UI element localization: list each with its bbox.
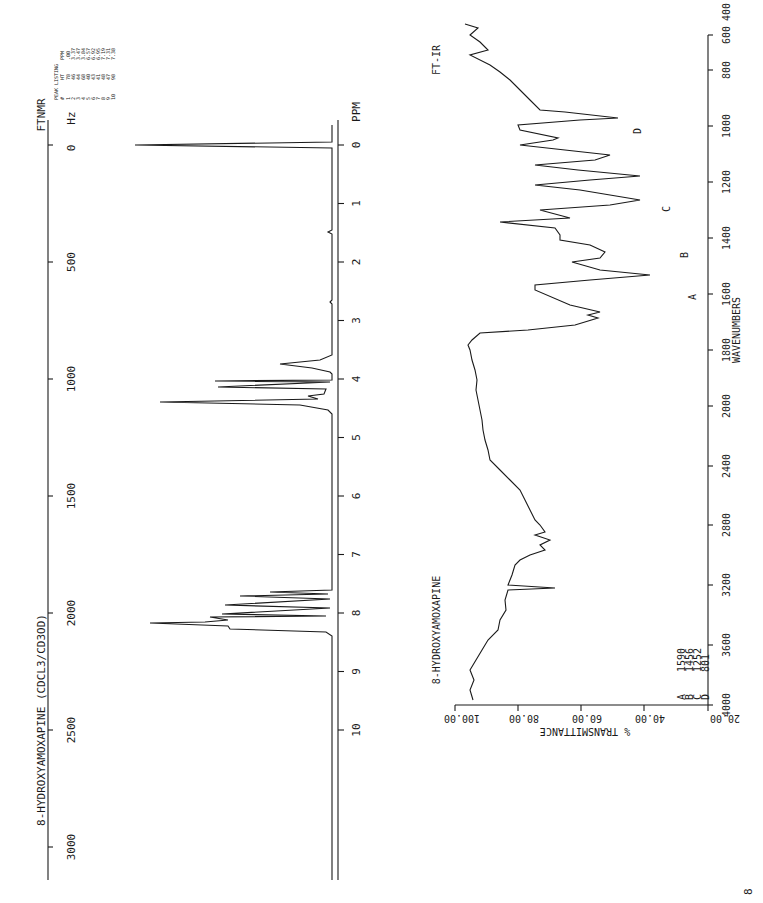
- ir-x-tick-label: 2000: [721, 394, 732, 418]
- nmr-ppm-tick-label: 9: [350, 668, 363, 675]
- nmr-ppm-tick-label: 0: [350, 142, 363, 149]
- nmr-hz-unit: Hz: [65, 111, 78, 124]
- svg-text:C: C: [661, 206, 672, 212]
- spectra-page: 0 500 1000 1500 2000 2500 3000 Hz FTNMR …: [0, 0, 763, 903]
- svg-text:98: 98: [110, 74, 116, 80]
- ir-peak-table: A 1590 B 1456 C 1252 D 801: [676, 648, 711, 700]
- ir-y-tick-label: 80.00: [509, 713, 539, 724]
- ir-x-tick-label: 4000: [721, 693, 732, 717]
- nmr-hz-tick-label: 1000: [65, 366, 78, 393]
- ir-y-tick-label: 40.00: [635, 713, 665, 724]
- nmr-ppm-tick-label: 5: [350, 434, 363, 441]
- svg-text:B: B: [679, 252, 690, 258]
- ir-x-tick-label: 3600: [721, 633, 732, 657]
- nmr-hz-tick-label: 2000: [65, 600, 78, 627]
- nmr-ppm-ticks: [338, 145, 344, 730]
- nmr-ppm-unit: PPM: [350, 102, 363, 122]
- nmr-hz-tick-label: 0: [65, 145, 78, 152]
- nmr-ppm-tick-label: 3: [350, 317, 363, 324]
- nmr-hz-tick-label: 1500: [65, 483, 78, 510]
- ir-x-tick-label: 1200: [721, 170, 732, 194]
- ir-x-tick-label: 1000: [721, 114, 732, 138]
- svg-text:A: A: [687, 294, 698, 300]
- ir-x-tick-label: 1400: [721, 226, 732, 250]
- nmr-hz-tick-label: 2500: [65, 717, 78, 744]
- ir-x-tick-label: 2800: [721, 513, 732, 537]
- nmr-spectrum: 0 500 1000 1500 2000 2500 3000 Hz FTNMR …: [35, 98, 363, 880]
- nmr-hz-tick-label: 500: [65, 252, 78, 272]
- nmr-ppm-tick-label: 1: [350, 200, 363, 207]
- peak-listing: PEAK LISTING # HT PPM 1 78 .00 2 46 3.37…: [53, 48, 116, 100]
- nmr-hz-ticks: [48, 145, 53, 847]
- ir-title: 8-HYDROXYAMOXAPINE: [431, 576, 442, 684]
- ir-instrument-label: FT-IR: [431, 44, 442, 75]
- svg-text:10: 10: [110, 94, 116, 100]
- nmr-ppm-tick-label: 8: [350, 610, 363, 617]
- ir-x-tick-label: 800: [721, 61, 732, 79]
- svg-text:D: D: [632, 128, 643, 134]
- nmr-ppm-tick-label: 2: [350, 259, 363, 266]
- ir-trace: [465, 24, 650, 700]
- svg-text:D: D: [700, 694, 711, 700]
- ir-x-tick-label: 2400: [721, 454, 732, 478]
- ir-y-axis-label: % TRANSMITTANCE: [540, 726, 630, 737]
- ir-y-tick-label: 60.00: [572, 713, 602, 724]
- ir-x-ticks: [708, 35, 713, 705]
- ir-y-tick-label: 100.00: [444, 713, 480, 724]
- nmr-instrument-label: FTNMR: [35, 98, 48, 131]
- svg-text:7.38: 7.38: [110, 48, 116, 60]
- nmr-ppm-tick-label: 7: [350, 551, 363, 558]
- ir-x-tick-label: 600: [721, 26, 732, 44]
- page-mark: 8: [742, 888, 755, 895]
- nmr-ppm-tick-label: 4: [350, 375, 363, 382]
- nmr-ppm-tick-label: 6: [350, 493, 363, 500]
- peak-listing-title: PEAK LISTING: [53, 64, 59, 100]
- nmr-hz-tick-label: 3000: [65, 834, 78, 861]
- ir-y-ticks: [455, 705, 708, 711]
- svg-text:801: 801: [700, 654, 711, 672]
- nmr-title: 8-HYDROXYAMOXAPINE (CDCL3/CD3OD): [35, 614, 48, 826]
- nmr-ppm-tick-label: 10: [350, 723, 363, 736]
- ir-x-axis-label: WAVENUMBERS: [731, 297, 742, 363]
- ir-spectrum: 20.00 40.00 60.00 80.00 100.00 % TRANSMI…: [431, 3, 742, 737]
- peak-listing-rows: 1 78 .00 2 46 3.37 3 44 3.47 4 68 3.84 5…: [65, 48, 116, 100]
- ir-x-tick-label: 400: [721, 3, 732, 21]
- nmr-trace: [135, 125, 332, 880]
- ir-x-tick-label: 3200: [721, 573, 732, 597]
